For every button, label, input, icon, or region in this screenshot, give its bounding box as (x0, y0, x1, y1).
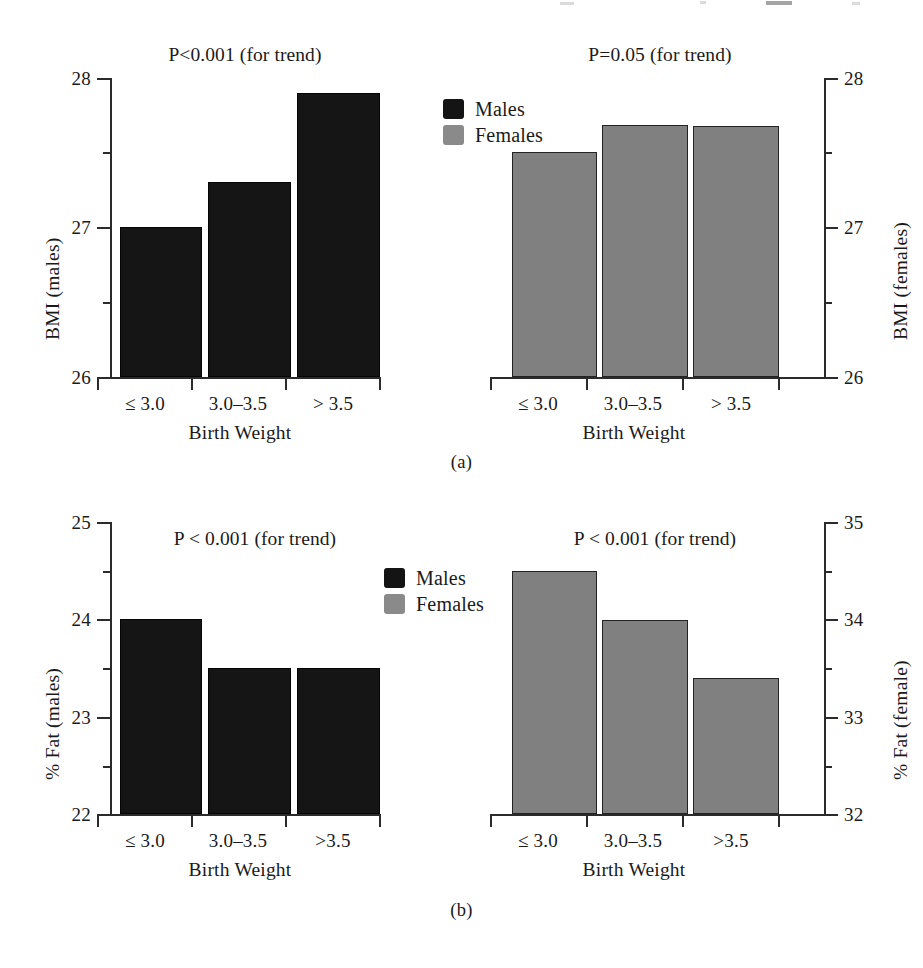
x-tick (778, 814, 780, 827)
y-tick-label: 34 (844, 610, 884, 629)
bar-a-females-2 (693, 126, 779, 377)
bar-a-males-1 (208, 182, 291, 377)
chart-title: P<0.001 (for trend) (60, 44, 430, 66)
y-axis-title: % Fat (males) (42, 668, 64, 780)
panel-a: P<0.001 (for trend) 28 27 26 BMI (males) (0, 0, 923, 490)
y-tick-label: 24 (55, 610, 91, 629)
bar-a-females-0 (512, 152, 597, 377)
y-tick-major (824, 227, 838, 229)
x-axis-title: Birth Weight (130, 422, 350, 444)
bar-b-females-0 (512, 571, 597, 814)
x-tick (97, 377, 99, 390)
x-tick (285, 814, 287, 827)
female-swatch-icon (384, 594, 405, 614)
chart-title: P < 0.001 (for trend) (70, 528, 440, 550)
x-axis-title: Birth Weight (524, 422, 744, 444)
y-tick-minor (103, 668, 111, 670)
chart-title: P < 0.001 (for trend) (475, 528, 835, 550)
x-tick (586, 814, 588, 827)
bar-b-males-2 (297, 668, 380, 814)
x-axis-line (490, 814, 838, 816)
panel-caption-a: (a) (0, 452, 923, 473)
y-tick-label: 22 (55, 805, 91, 824)
y-tick-major (97, 227, 111, 229)
y-tick-minor (824, 766, 832, 768)
y-tick-minor (103, 152, 111, 154)
bar-a-males-2 (297, 93, 380, 377)
y-tick-label: 25 (55, 513, 91, 532)
y-tick-major (97, 78, 111, 80)
x-axis-line (97, 377, 381, 379)
chart-a-males: P<0.001 (for trend) 28 27 26 BMI (males) (0, 0, 460, 440)
x-tick (682, 377, 684, 390)
x-tick-label: > 3.5 (288, 393, 378, 415)
bar-b-males-0 (120, 619, 202, 814)
x-tick-label: ≤ 3.0 (493, 830, 583, 852)
x-tick (285, 377, 287, 390)
x-tick-label: 3.0–3.5 (588, 393, 678, 415)
x-tick (191, 814, 193, 827)
y-tick-minor (824, 571, 832, 573)
x-tick-label: ≤ 3.0 (100, 830, 190, 852)
y-tick-label: 26 (844, 368, 884, 387)
x-tick (778, 377, 780, 390)
x-tick-label: >3.5 (288, 830, 378, 852)
chart-b-females: P < 0.001 (for trend) 35 34 33 32 % Fat … (460, 490, 923, 920)
chart-a-females: P=0.05 (for trend) 28 27 26 BMI (females… (460, 0, 923, 440)
x-tick (586, 377, 588, 390)
y-tick-label: 28 (844, 69, 884, 88)
y-tick-minor (103, 302, 111, 304)
y-tick-major (824, 717, 838, 719)
y-axis-title: BMI (females) (890, 222, 912, 340)
y-tick-label: 32 (844, 805, 884, 824)
y-tick-minor (103, 766, 111, 768)
x-tick-label: >3.5 (686, 830, 776, 852)
bar-a-females-1 (602, 125, 688, 377)
x-tick-label: 3.0–3.5 (588, 830, 678, 852)
y-tick-label: 35 (844, 513, 884, 532)
y-tick-major (97, 522, 111, 524)
male-swatch-icon (384, 568, 405, 588)
x-tick (379, 814, 381, 827)
y-tick-major (97, 377, 111, 379)
y-tick-major (824, 522, 838, 524)
x-tick-label: ≤ 3.0 (100, 393, 190, 415)
y-tick-minor (103, 571, 111, 573)
y-tick-major (97, 619, 111, 621)
x-axis-line (490, 377, 838, 379)
x-axis-title: Birth Weight (524, 859, 744, 881)
y-axis-title: % Fat (female) (890, 660, 912, 780)
x-tick (490, 377, 492, 390)
y-tick-label: 33 (844, 708, 884, 727)
bar-a-males-0 (120, 227, 202, 377)
x-axis-title: Birth Weight (130, 859, 350, 881)
y-tick-label: 27 (844, 218, 884, 237)
x-tick (379, 377, 381, 390)
x-tick (97, 814, 99, 827)
x-tick (682, 814, 684, 827)
y-tick-major (824, 377, 838, 379)
panel-b: P < 0.001 (for trend) 25 24 23 22 % Fat … (0, 490, 923, 968)
bar-b-males-1 (208, 668, 291, 814)
y-tick-minor (824, 152, 832, 154)
x-tick (490, 814, 492, 827)
y-tick-major (97, 717, 111, 719)
y-tick-minor (824, 302, 832, 304)
y-tick-major (97, 814, 111, 816)
x-tick-label: > 3.5 (686, 393, 776, 415)
x-tick (191, 377, 193, 390)
y-tick-label: 26 (55, 368, 91, 387)
x-tick-label: 3.0–3.5 (193, 830, 283, 852)
y-axis-title: BMI (males) (42, 238, 64, 340)
y-tick-major (824, 78, 838, 80)
bar-b-females-2 (693, 678, 779, 814)
x-axis-line (97, 814, 381, 816)
y-tick-label: 27 (55, 218, 91, 237)
figure-root: P<0.001 (for trend) 28 27 26 BMI (males) (0, 0, 923, 968)
y-tick-major (824, 814, 838, 816)
chart-title: P=0.05 (for trend) (480, 44, 840, 66)
bar-b-females-1 (602, 620, 688, 814)
y-tick-major (824, 619, 838, 621)
chart-b-males: P < 0.001 (for trend) 25 24 23 22 % Fat … (0, 490, 460, 920)
y-tick-minor (824, 668, 832, 670)
